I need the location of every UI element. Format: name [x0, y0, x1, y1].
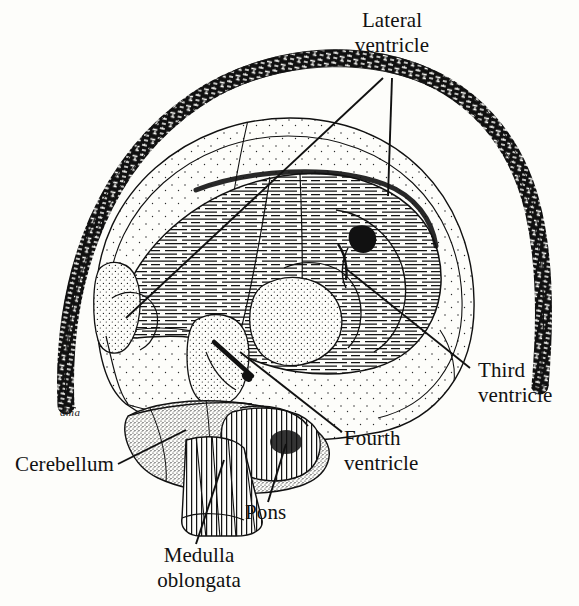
- label-cerebellum: Cerebellum: [0, 452, 114, 477]
- artist-signature: dma: [60, 406, 80, 418]
- label-pons: Pons: [245, 500, 325, 525]
- label-medulla-oblongata: Medulla oblongata: [124, 543, 274, 593]
- label-third-ventricle: Third ventricle: [478, 358, 578, 408]
- label-lateral-ventricle: Lateral ventricle: [307, 8, 477, 58]
- label-fourth-ventricle: Fourth ventricle: [344, 426, 464, 476]
